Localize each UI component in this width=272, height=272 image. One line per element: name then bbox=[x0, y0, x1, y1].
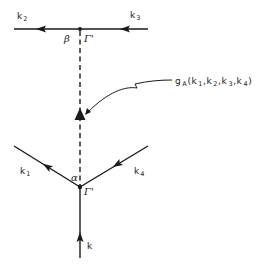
vertex-top-dot bbox=[78, 27, 82, 31]
label-k3: k3 bbox=[130, 11, 140, 22]
arrow-k4-icon bbox=[111, 159, 123, 170]
vertex-bottom-dot bbox=[78, 185, 82, 189]
triangle-marker-icon bbox=[75, 108, 86, 120]
label-beta: β bbox=[64, 34, 70, 44]
arrow-k1-icon bbox=[41, 161, 53, 172]
label-k: k bbox=[87, 242, 92, 251]
diagram-canvas bbox=[0, 0, 272, 272]
label-gamma-prime-bottom: Γ' bbox=[84, 187, 94, 197]
wavy-pointer-arrow bbox=[88, 80, 172, 112]
annotation-g-a: gA(k1,k2,k3,k4) bbox=[175, 77, 252, 88]
label-gamma-prime-top: Γ' bbox=[84, 34, 94, 44]
label-k4: k4 bbox=[134, 167, 144, 178]
pointer-arrowhead-icon bbox=[85, 108, 91, 115]
label-k1: k1 bbox=[20, 167, 30, 178]
label-k2: k2 bbox=[17, 12, 27, 23]
label-alpha: α bbox=[71, 173, 78, 183]
